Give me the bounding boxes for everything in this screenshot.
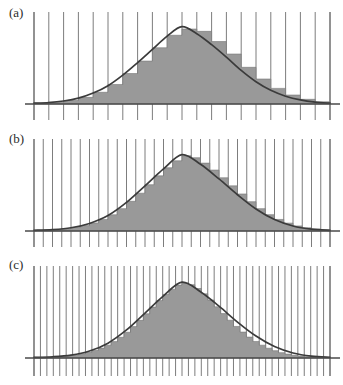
panel-b-plot: [0, 126, 343, 252]
histogram-convergence-figure: (a) (b) (c): [0, 0, 343, 385]
panel-a: (a): [0, 0, 343, 126]
histogram-bars: [34, 283, 330, 358]
panel-c: (c): [0, 252, 343, 385]
panel-b-svg: [0, 126, 343, 252]
panel-c-label: (c): [9, 258, 23, 271]
panel-b-label: (b): [9, 132, 24, 145]
histogram-step-area: [34, 156, 330, 231]
panel-a-svg: [0, 0, 343, 126]
panel-c-svg: [0, 252, 343, 385]
panel-b: (b): [0, 126, 343, 252]
panel-a-label: (a): [9, 6, 23, 19]
histogram-step-area: [34, 283, 330, 358]
histogram-bars: [34, 156, 330, 231]
panel-c-plot: [0, 252, 343, 385]
panel-a-plot: [0, 0, 343, 126]
